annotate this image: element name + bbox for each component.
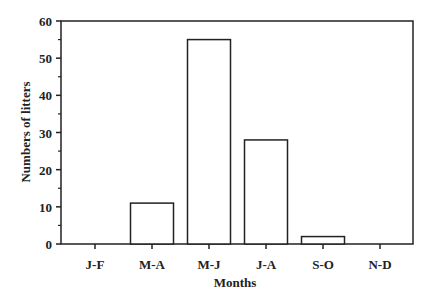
y-axis-title: Numbers of litters — [18, 81, 33, 182]
x-tick-label: M-A — [139, 257, 166, 272]
bar-m-j — [188, 40, 231, 244]
bar-chart: 0102030405060J-FM-AM-JJ-AS-ON-D Numbers … — [0, 0, 430, 302]
y-tick-label: 20 — [39, 163, 52, 178]
x-tick-label: N-D — [368, 257, 391, 272]
x-axis-title: Months — [214, 275, 257, 290]
bar-m-a — [131, 203, 174, 244]
plot-frame — [61, 21, 413, 244]
y-tick-label: 0 — [46, 237, 53, 252]
y-tick-label: 50 — [39, 51, 52, 66]
bar-s-o — [302, 237, 345, 244]
y-tick-label: 30 — [39, 126, 52, 141]
x-tick-label: J-F — [86, 257, 105, 272]
x-tick-label: M-J — [197, 257, 221, 272]
y-tick-label: 60 — [39, 14, 52, 29]
x-tick-label: J-A — [256, 257, 277, 272]
plot-area: 0102030405060J-FM-AM-JJ-AS-ON-D — [39, 14, 413, 272]
y-tick-label: 10 — [39, 200, 52, 215]
y-tick-label: 40 — [39, 88, 52, 103]
bar-j-a — [245, 140, 288, 244]
x-tick-label: S-O — [312, 257, 334, 272]
